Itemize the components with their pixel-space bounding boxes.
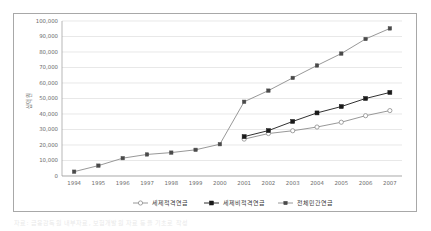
- data-point-marker: [284, 201, 287, 204]
- x-tick-label: 1997: [140, 180, 154, 186]
- data-point-marker: [315, 64, 318, 67]
- data-point-marker: [339, 120, 343, 124]
- data-point-marker: [364, 97, 368, 101]
- y-tick-label: 20,000: [39, 142, 58, 148]
- y-tick-label: 60,000: [39, 80, 58, 86]
- data-point-marker: [291, 119, 295, 123]
- legend-label: 전체민간연금: [297, 199, 333, 207]
- data-point-marker: [388, 27, 391, 30]
- data-point-marker: [388, 90, 392, 94]
- x-tick-label: 1994: [67, 180, 81, 186]
- y-axis-title-text: 십억 원: [25, 93, 33, 110]
- data-point-marker: [242, 135, 246, 139]
- data-point-marker: [388, 108, 392, 112]
- data-point-marker: [266, 129, 270, 133]
- data-point-marker: [170, 151, 173, 154]
- x-tick-label: 2001: [237, 180, 251, 186]
- y-tick-label: 90,000: [39, 33, 58, 39]
- y-tick-label: 40,000: [39, 111, 58, 117]
- y-tick-label: 50,000: [39, 95, 58, 101]
- gridlines-group: [62, 21, 402, 176]
- data-point-marker: [363, 114, 367, 118]
- series-markers-group: [72, 27, 392, 174]
- data-point-marker: [218, 143, 221, 146]
- series-line: [74, 28, 390, 171]
- data-point-marker: [315, 111, 319, 115]
- data-point-marker: [291, 129, 295, 133]
- figure-container: 010,00020,00030,00040,00050,00060,00070,…: [0, 0, 431, 231]
- y-tick-label: 100,000: [36, 18, 59, 24]
- x-tick-label: 2007: [383, 180, 397, 186]
- chart-canvas: 010,00020,00030,00040,00050,00060,00070,…: [0, 0, 431, 231]
- y-axis-title: 십억 원: [25, 93, 33, 110]
- x-tick-label: 2002: [262, 180, 276, 186]
- x-tick-label: 2004: [310, 180, 324, 186]
- data-point-marker: [242, 100, 245, 103]
- data-point-marker: [267, 89, 270, 92]
- data-point-marker: [72, 170, 75, 173]
- y-tick-label: 10,000: [39, 157, 58, 163]
- data-point-marker: [210, 201, 214, 205]
- data-point-marker: [145, 153, 148, 156]
- data-point-marker: [194, 148, 197, 151]
- y-axis-tick-labels: 010,00020,00030,00040,00050,00060,00070,…: [36, 18, 59, 179]
- x-axis-tick-labels: 1994199519961997199819992000200120022003…: [67, 180, 396, 186]
- x-tick-label: 1995: [92, 180, 106, 186]
- data-point-marker: [291, 76, 294, 79]
- legend-label: 세제적격연금: [152, 199, 188, 207]
- x-tick-label: 2003: [286, 180, 300, 186]
- y-tick-label: 30,000: [39, 126, 58, 132]
- data-point-marker: [315, 125, 319, 129]
- legend-label: 세제비적격연금: [223, 199, 265, 207]
- data-point-marker: [121, 156, 124, 159]
- data-point-marker: [339, 105, 343, 109]
- data-point-marker: [364, 37, 367, 40]
- data-point-marker: [138, 201, 142, 205]
- x-tick-label: 2000: [213, 180, 227, 186]
- x-tick-label: 1999: [189, 180, 203, 186]
- x-tick-label: 2006: [359, 180, 373, 186]
- y-tick-label: 70,000: [39, 64, 58, 70]
- data-point-marker: [97, 164, 100, 167]
- x-tick-label: 1996: [116, 180, 130, 186]
- x-tick-label: 1998: [164, 180, 178, 186]
- data-point-marker: [340, 52, 343, 55]
- y-tick-label: 0: [55, 173, 59, 179]
- chart-legend: 세제적격연금세제비적격연금전체민간연금: [133, 199, 333, 207]
- y-tick-label: 80,000: [39, 49, 58, 55]
- figure-caption: 자료: 금융감독원 내부자료, 보험개발원 자료 등을 기초로 작성: [14, 218, 414, 228]
- series-lines-group: [74, 28, 390, 171]
- x-tick-label: 2005: [334, 180, 348, 186]
